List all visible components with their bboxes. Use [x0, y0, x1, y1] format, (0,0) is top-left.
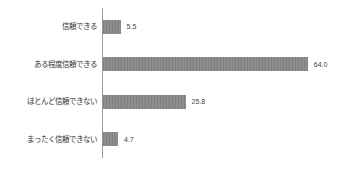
bar-value-label: 64.0 [314, 61, 328, 68]
bar [103, 95, 186, 109]
bar-track: 25.8 [103, 95, 344, 109]
bar [103, 20, 121, 34]
y-axis-line [102, 8, 103, 158]
bar-value-label: 5.5 [127, 23, 137, 30]
bar [103, 57, 308, 71]
chart-plot-area: 信頼できる 5.5 ある程度信頼できる 64.0 ほとんど信頼できない 25.8… [0, 8, 344, 158]
bar-row: ある程度信頼できる 64.0 [0, 46, 344, 84]
bar-track: 4.7 [103, 132, 344, 146]
category-label: ほとんど信頼できない [0, 97, 97, 106]
bar-track: 5.5 [103, 20, 344, 34]
category-label: 信頼できる [0, 22, 97, 31]
bar-row: ほとんど信頼できない 25.8 [0, 83, 344, 121]
bar-value-label: 25.8 [192, 98, 206, 105]
bar-value-label: 4.7 [124, 136, 134, 143]
bar-chart: 信頼できる 5.5 ある程度信頼できる 64.0 ほとんど信頼できない 25.8… [0, 0, 344, 169]
bar [103, 132, 118, 146]
bar-row: 信頼できる 5.5 [0, 8, 344, 46]
category-label: ある程度信頼できる [0, 60, 97, 69]
bar-track: 64.0 [103, 57, 344, 71]
bar-row: まったく信頼できない 4.7 [0, 121, 344, 159]
category-label: まったく信頼できない [0, 135, 97, 144]
